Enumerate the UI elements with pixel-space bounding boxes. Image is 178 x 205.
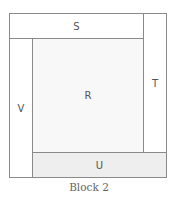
- piece-u: U: [32, 152, 167, 178]
- diagram-caption: Block 2: [0, 181, 178, 193]
- piece-v: V: [9, 38, 33, 178]
- piece-u-label: U: [96, 160, 103, 171]
- piece-v-label: V: [18, 103, 25, 114]
- piece-t-label: T: [152, 78, 158, 89]
- piece-s: S: [9, 13, 144, 39]
- piece-s-label: S: [73, 21, 79, 32]
- piece-r-label: R: [85, 90, 92, 101]
- piece-t: T: [143, 13, 167, 153]
- piece-r: R: [32, 38, 144, 153]
